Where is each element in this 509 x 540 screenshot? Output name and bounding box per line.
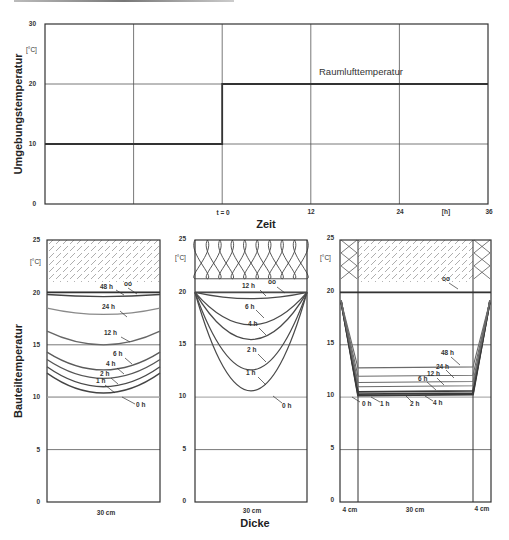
panel-a-series-label: 12 h (104, 329, 117, 336)
bottom-y-axis-title: Bauteiltemperatur (12, 323, 24, 418)
top-chart (45, 24, 488, 204)
panel-c-curve (341, 301, 490, 392)
panel-c-y-tick-20: 20 (327, 287, 335, 294)
panel-a-y-tick-0: 0 (36, 498, 40, 505)
panel-b-series-label: 0 h (282, 402, 291, 409)
panel-c-series-label: 4 h (433, 399, 442, 406)
panel-a-width-label: 30 cm (97, 509, 116, 516)
panel-c-y-tick-0: 0 (330, 496, 334, 503)
panel-c-curve (341, 301, 490, 368)
panel-c-curve (341, 301, 490, 394)
panel-b-series-label: 4 h (248, 320, 257, 327)
panel-b-y-tick-25: 25 (179, 235, 187, 242)
top-y-tick-30: 30 (29, 20, 37, 27)
top-x-tick-12: 12 (307, 208, 315, 215)
figure-svg: [°C] Umgebungstemperatur Raumlufttempera… (0, 0, 509, 540)
panel-a-curve (47, 294, 160, 296)
panel-c-width-label-left: 4 cm (343, 506, 358, 513)
bottom-x-axis-title: Dicke (240, 517, 269, 529)
panel-c-y-tick-10: 10 (327, 391, 335, 398)
panel-a-y-tick-15: 15 (33, 341, 41, 348)
panel-a-series-label: oo (124, 280, 132, 287)
room-air-temperature-label: Raumlufttemperatur (319, 66, 403, 77)
leader-line (125, 358, 132, 364)
panel-a-series-label: 6 h (113, 350, 122, 357)
panel-b-series-label: 2 h (247, 346, 256, 353)
top-x-unit: [h] (442, 208, 450, 216)
top-plot-frame (45, 24, 488, 204)
panel-a-series-label: 4 h (106, 360, 115, 367)
leader-line (446, 370, 454, 378)
top-x-tick-t0: t = 0 (216, 209, 230, 216)
panel-a-y-tick-25: 25 (33, 236, 41, 243)
panel-a: oo48 h24 h12 h6 h4 h2 h1 h0 h (47, 240, 160, 502)
panel-a-y-tick-5: 5 (36, 446, 40, 453)
top-y-tick-10: 10 (29, 140, 37, 147)
panel-b: oo12 h6 h4 h2 h1 h0 h (194, 240, 309, 502)
panel-a-series-label: 48 h (100, 283, 113, 290)
panel-c-series-label: 6 h (418, 375, 427, 382)
panel-b-series-label: oo (268, 278, 276, 285)
top-y-tick-20: 20 (29, 80, 37, 87)
panel-a-series-label: 1 h (96, 377, 105, 384)
panel-b-y-unit: [°C] (175, 254, 186, 262)
panel-c-y-unit: [°C] (320, 254, 331, 262)
panel-a-curve (47, 352, 160, 370)
leader-line (449, 283, 458, 289)
panel-a-series-label: 2 h (100, 370, 109, 377)
room-air-temperature-line (45, 84, 488, 144)
panel-c-curve (341, 301, 490, 387)
panel-c-curve (341, 301, 490, 376)
panel-b-series-label: 1 h (246, 369, 255, 376)
panel-b-y-tick-10: 10 (179, 392, 187, 399)
panel-b-curve (195, 292, 307, 298)
panel-a-y-unit: [°C] (30, 258, 41, 266)
leader-line (122, 397, 135, 404)
panel-c: oo48 h24 h12 h6 h0 h1 h2 h4 h (340, 240, 491, 502)
leader-line (258, 377, 266, 385)
top-y-unit: [°C] (26, 46, 37, 54)
panel-c-series-label: 48 h (441, 349, 454, 356)
leader-line (111, 378, 118, 384)
top-y-axis-title: Umgebungstemperatur (12, 53, 24, 175)
panel-c-width-label-right: 4 cm (475, 505, 490, 512)
panel-b-y-tick-20: 20 (179, 288, 187, 295)
leader-line (259, 328, 266, 335)
panel-a-series-label: 24 h (102, 303, 115, 310)
panel-c-width-label-core: 30 cm (406, 506, 425, 513)
panel-a-y-tick-10: 10 (33, 393, 41, 400)
top-x-tick-24: 24 (396, 208, 404, 215)
panel-a-series-label: 0 h (136, 401, 145, 408)
panel-c-y-tick-25: 25 (327, 234, 335, 241)
leader-line (258, 354, 266, 362)
top-x-axis-title: Zeit (256, 218, 276, 230)
leader-line (256, 310, 264, 318)
panel-c-hatched-core (358, 240, 473, 282)
panel-c-series-label: 24 h (436, 363, 449, 370)
leader-line (121, 337, 130, 342)
panel-b-y-tick-0: 0 (182, 497, 186, 504)
panel-b-series-label: 12 h (242, 282, 255, 289)
top-x-tick-36: 36 (485, 208, 493, 215)
panel-a-y-tick-20: 20 (33, 289, 41, 296)
panel-b-y-tick-15: 15 (179, 340, 187, 347)
panel-c-y-tick-5: 5 (330, 444, 334, 451)
panel-a-hatched-zone (47, 240, 160, 282)
panel-b-y-tick-5: 5 (182, 445, 186, 452)
leader-line (451, 357, 460, 365)
panel-c-curve (341, 301, 490, 383)
bottom-charts: oo48 h24 h12 h6 h4 h2 h1 h0 hoo12 h6 h4 … (47, 240, 491, 502)
panel-c-series-label: oo (442, 275, 450, 282)
panel-c-series-label: 0 h (362, 400, 371, 407)
panel-c-y-tick-15: 15 (327, 339, 335, 346)
panel-c-series-label: 1 h (380, 400, 389, 407)
panel-b-width-label: 30 cm (243, 507, 262, 514)
panel-b-series-label: 6 h (245, 303, 254, 310)
top-y-tick-0: 0 (32, 200, 36, 207)
chart-canvas: [°C] Umgebungstemperatur Raumlufttempera… (0, 0, 509, 540)
panel-c-series-label: 12 h (427, 370, 440, 377)
panel-b-insulation-pattern (194, 240, 309, 279)
